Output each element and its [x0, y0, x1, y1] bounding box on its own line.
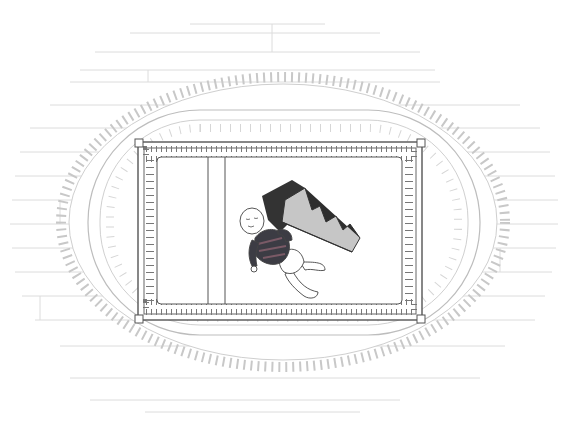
baby-head	[240, 208, 264, 234]
illustration-canvas	[0, 0, 568, 436]
